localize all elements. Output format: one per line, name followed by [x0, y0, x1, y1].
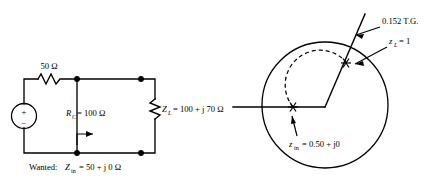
smith-chart-outer-circle: [262, 42, 388, 168]
shunt-resistor-symbol-text: R: [65, 108, 72, 118]
zl-label-symbol: z: [388, 36, 393, 46]
wanted-prefix-text: Wanted:: [29, 162, 57, 172]
source-minus-label: −: [22, 118, 27, 128]
load-impedance-symbol-text: Z: [162, 104, 167, 114]
zin-marker-star: [288, 103, 298, 112]
wanted-symbol-text: Z: [65, 162, 70, 172]
zin-label-subscript: in: [294, 144, 299, 151]
zin-label-value: = 0.50 + j0: [302, 139, 340, 149]
wanted-subscript: in: [71, 167, 76, 174]
zin-label-symbol: z: [288, 139, 293, 149]
wanted-impedance-label: Wanted: Z in = 50 + j 0 Ω: [29, 162, 121, 174]
shunt-resistor-label: R C = 100 Ω: [65, 108, 105, 120]
node-dot-top-left: [74, 76, 80, 82]
series-resistor-label: 50 Ω: [40, 61, 57, 71]
source-plus-label: +: [22, 107, 27, 117]
zin-direction-arrow-line: [77, 134, 93, 145]
node-dot-top-right: [138, 76, 144, 82]
zin-direction-arrowhead: [86, 131, 93, 137]
zl-label-value: = 1: [399, 36, 410, 46]
zl-label-subscript: L: [393, 41, 398, 48]
load-resistor-symbol: [150, 99, 160, 119]
node-dot-bottom-right: [138, 150, 144, 156]
load-impedance-subscript: L: [167, 109, 172, 116]
figure-canvas: + − 50 Ω R C = 100 Ω Z L = 100 + j 70: [0, 0, 429, 191]
wire-top-right-corner: [141, 79, 155, 99]
tg-label: 0.152 T.G.: [382, 16, 418, 26]
zin-label: z in = 0.50 + j0: [288, 139, 340, 151]
wire-bottom-to-source: [24, 128, 141, 153]
smith-chart: 0.152 T.G. z L = 1 z in = 0.50 + j0: [233, 14, 418, 168]
node-dot-bottom-left: [74, 150, 80, 156]
load-impedance-value: = 100 + j 70 Ω: [173, 104, 224, 114]
zl-label: z L = 1: [388, 36, 410, 48]
load-impedance-label: Z L = 100 + j 70 Ω: [162, 104, 224, 116]
series-resistor-symbol: [38, 74, 77, 84]
wire-source-to-resistor: [24, 79, 38, 104]
circuit-diagram: + − 50 Ω R C = 100 Ω Z L = 100 + j 70: [12, 61, 224, 174]
shunt-resistor-value: = 100 Ω: [77, 108, 105, 118]
wanted-value-text: = 50 + j 0 Ω: [79, 162, 121, 172]
figure-page: + − 50 Ω R C = 100 Ω Z L = 100 + j 70: [0, 0, 429, 191]
wire-bottom-right-corner: [141, 119, 155, 153]
